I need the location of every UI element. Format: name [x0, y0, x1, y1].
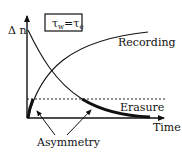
erasure-curve: [28, 30, 82, 99]
recording-curve-thick: [28, 99, 33, 118]
recording-label: Recording: [118, 36, 176, 49]
asymmetry-label: Asymmetry: [36, 136, 101, 149]
asymmetry-arrow-right: [67, 110, 91, 135]
y-axis-label: Δ n: [8, 24, 27, 37]
condition-label: τw=τe: [52, 17, 84, 31]
x-axis-label: Time: [153, 121, 181, 134]
asymmetry-arrow-left: [37, 111, 55, 135]
recording-erasure-diagram: τw=τe Δ n Recording Erasure Time Asymmet…: [0, 0, 182, 157]
erasure-label: Erasure: [120, 101, 164, 114]
